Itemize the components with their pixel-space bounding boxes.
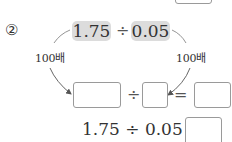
previous-answer-box[interactable] bbox=[175, 0, 212, 4]
quotient-box[interactable] bbox=[194, 82, 231, 108]
division-sign-middle: ÷ bbox=[127, 85, 140, 105]
left-multiplier-label: 100배 bbox=[35, 52, 65, 65]
divisor-highlight: 0.05 bbox=[131, 21, 170, 41]
dividend-highlight: 1.75 bbox=[72, 21, 111, 41]
final-answer-box[interactable] bbox=[185, 117, 222, 142]
equals-sign-middle: = bbox=[174, 85, 187, 105]
problem-number: ② bbox=[5, 22, 18, 38]
division-sign-top: ÷ bbox=[116, 21, 129, 41]
right-multiplier-label: 100배 bbox=[176, 52, 206, 65]
scaled-dividend-box[interactable] bbox=[73, 82, 121, 108]
scaled-divisor-box[interactable] bbox=[142, 82, 168, 108]
